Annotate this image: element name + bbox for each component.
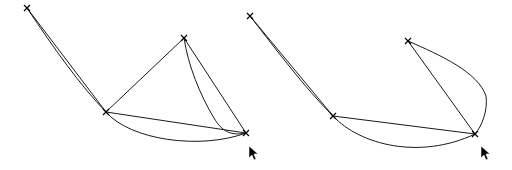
control-point-marker[interactable] xyxy=(405,38,411,44)
control-point-markers[interactable] xyxy=(247,13,478,137)
spline-curve xyxy=(27,8,246,141)
control-point-marker[interactable] xyxy=(24,5,30,11)
spline-diagram xyxy=(0,0,512,170)
spline-curve xyxy=(250,16,486,147)
control-polygon xyxy=(250,16,475,134)
control-polygon xyxy=(27,8,246,133)
left-panel xyxy=(24,5,258,160)
control-point-marker[interactable] xyxy=(247,13,253,19)
mouse-cursor-icon xyxy=(481,146,490,160)
mouse-cursor-icon xyxy=(249,146,258,160)
right-panel xyxy=(247,13,490,160)
